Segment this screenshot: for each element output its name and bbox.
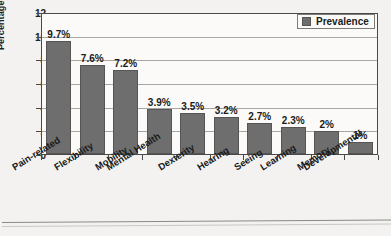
bar-slot: 3.9% xyxy=(143,14,177,154)
bar-slot: 3.2% xyxy=(210,14,244,154)
bar-chart-figure: Percentage (%) 024681012 9.7%7.6%7.2%3.9… xyxy=(0,0,391,236)
bar-slot: 2% xyxy=(310,14,344,154)
page-divider-rule xyxy=(2,220,391,223)
bar-value-label: 2.7% xyxy=(248,111,271,122)
bar xyxy=(113,70,138,154)
bar-slot: 7.2% xyxy=(109,14,143,154)
bar xyxy=(147,109,172,155)
bar-slot: 7.6% xyxy=(76,14,110,154)
bar-value-label: 9.7% xyxy=(47,29,70,40)
x-tick-mark xyxy=(142,155,143,160)
bar-value-label: 2.3% xyxy=(282,115,305,126)
bar-value-label: 7.2% xyxy=(114,58,137,69)
bar-value-label: 3.2% xyxy=(215,105,238,116)
page-divider-rule-secondary xyxy=(2,224,391,227)
bar-value-label: 2% xyxy=(320,119,334,130)
bar-slot: 9.7% xyxy=(42,14,76,154)
bar-slot: 2.7% xyxy=(243,14,277,154)
x-tick-mark xyxy=(344,155,345,160)
bar-slot: 3.5% xyxy=(176,14,210,154)
bar xyxy=(80,65,105,154)
legend-swatch-prevalence xyxy=(302,17,311,26)
bar-value-label: 3.5% xyxy=(181,101,204,112)
x-tick-mark xyxy=(378,155,379,160)
bar-value-label: 3.9% xyxy=(148,97,171,108)
bar-series-prevalence: 9.7%7.6%7.2%3.9%3.5%3.2%2.7%2.3%2%1% xyxy=(42,14,377,154)
legend-label-prevalence: Prevalence xyxy=(316,16,369,27)
legend: Prevalence xyxy=(297,14,375,29)
bar-value-label: 7.6% xyxy=(81,53,104,64)
y-axis-label: Percentage (%) xyxy=(0,0,6,50)
bar-slot: 2.3% xyxy=(277,14,311,154)
